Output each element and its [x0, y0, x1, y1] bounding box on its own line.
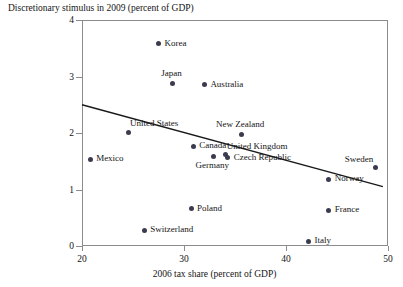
x-tick-label-text: 20 [62, 253, 102, 265]
data-point-label: United States [130, 118, 178, 128]
chart-title: Discretionary stimulus in 2009 (percent … [8, 2, 194, 14]
data-point [211, 154, 216, 159]
data-point-label: Sweden [345, 154, 374, 164]
y-tick-label-text: 2 [52, 128, 74, 138]
x-tick-mark [184, 246, 185, 251]
y-tick-label-text: 1 [52, 185, 74, 195]
data-point-label: Mexico [96, 153, 124, 163]
y-tick-label-text: 4 [52, 15, 74, 25]
data-point [326, 177, 331, 182]
data-point [202, 82, 207, 87]
x-tick-mark [388, 246, 389, 251]
data-point-label: United Kingdom [227, 141, 288, 151]
x-axis-title: 2006 tax share (percent of GDP) [0, 268, 403, 280]
y-tick-label: 3 [50, 72, 74, 82]
data-point [170, 81, 175, 86]
x-tick-mark [286, 246, 287, 251]
x-tick-label-text: 50 [368, 253, 403, 265]
data-point [306, 239, 311, 244]
x-tick-mark [82, 246, 83, 251]
y-tick-label: 0 [50, 241, 74, 251]
y-tick-label-text: 0 [52, 241, 74, 251]
data-point-label: Switzerland [150, 224, 193, 234]
data-point-label: Czech Republic [234, 152, 291, 162]
data-point-label: Italy [314, 235, 331, 245]
data-point [156, 41, 161, 46]
data-point-label: New Zealand [216, 119, 264, 129]
scatter-chart-figure: Discretionary stimulus in 2009 (percent … [0, 0, 403, 287]
data-point-label: Australia [210, 79, 243, 89]
data-point [326, 208, 331, 213]
data-point [88, 157, 93, 162]
x-tick-label-text: 30 [164, 253, 204, 265]
data-point-label: Korea [164, 38, 186, 48]
x-tick-label-text: 40 [266, 253, 306, 265]
y-tick-label: 4 [50, 15, 74, 25]
data-point [239, 132, 244, 137]
data-point-label: Canada [199, 140, 226, 150]
y-tick-label: 1 [50, 185, 74, 195]
x-tick-label: 50 [368, 253, 403, 265]
data-point-label: Germany [196, 160, 230, 170]
x-tick-label: 20 [62, 253, 102, 265]
data-point-label: France [335, 204, 360, 214]
x-tick-label: 30 [164, 253, 204, 265]
data-point [142, 228, 147, 233]
data-point [126, 130, 131, 135]
x-tick-label: 40 [266, 253, 306, 265]
y-tick-label: 2 [50, 128, 74, 138]
data-point [191, 144, 196, 149]
x-axis-title-text: 2006 tax share (percent of GDP) [153, 269, 277, 279]
data-point [373, 165, 378, 170]
data-point-label: Poland [197, 203, 222, 213]
data-point [189, 206, 194, 211]
y-tick-label-text: 3 [52, 72, 74, 82]
data-point-label: Norway [335, 173, 364, 183]
data-point-label: Japan [161, 68, 182, 78]
